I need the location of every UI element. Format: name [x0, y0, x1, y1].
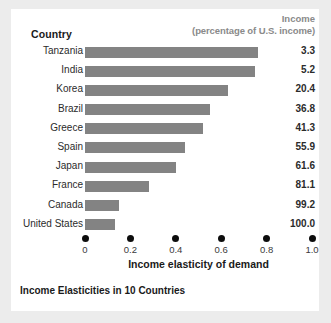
- bar: [85, 85, 228, 96]
- bar-row: Tanzania3.3: [11, 43, 319, 62]
- country-column-header: Country: [31, 28, 72, 40]
- income-header-line2: (percentage of U.S. income): [192, 25, 315, 37]
- bar-row: Spain55.9: [11, 139, 319, 158]
- tick-label: 0.6: [205, 244, 237, 255]
- x-axis-title: Income elasticity of demand: [85, 258, 312, 270]
- bar: [85, 47, 258, 58]
- bar-row: Brazil36.8: [11, 101, 319, 120]
- tick-dot-icon: [127, 235, 134, 242]
- tick-dot-icon: [82, 235, 89, 242]
- income-value: 36.8: [269, 103, 315, 114]
- tick-dot-icon: [263, 235, 270, 242]
- bar-row: Canada99.2: [11, 197, 319, 216]
- country-label: India: [11, 64, 83, 75]
- tick-dot-icon: [309, 235, 316, 242]
- figure-panel: Country Income (percentage of U.S. incom…: [11, 9, 319, 311]
- tick-label: 1.0: [296, 244, 328, 255]
- bar-row: United States100.0: [11, 216, 319, 235]
- table-header: Country Income (percentage of U.S. incom…: [11, 9, 319, 43]
- tick-dot-icon: [172, 235, 179, 242]
- country-label: Tanzania: [11, 45, 83, 56]
- income-column-header: Income (percentage of U.S. income): [192, 13, 315, 37]
- country-label: Greece: [11, 122, 83, 133]
- country-label: Spain: [11, 141, 83, 152]
- bar: [85, 66, 255, 77]
- tick-label: 0.2: [114, 244, 146, 255]
- income-header-line1: Income: [192, 13, 315, 25]
- income-value: 81.1: [269, 179, 315, 190]
- country-label: Korea: [11, 83, 83, 94]
- bar-row: India5.2: [11, 62, 319, 81]
- bar-row: Korea20.4: [11, 81, 319, 100]
- income-value: 20.4: [269, 83, 315, 94]
- figure-caption: Income Elasticities in 10 Countries: [20, 285, 185, 296]
- tick-dot-icon: [218, 235, 225, 242]
- income-value: 5.2: [269, 64, 315, 75]
- bar: [85, 162, 176, 173]
- income-value: 99.2: [269, 199, 315, 210]
- bar: [85, 200, 119, 211]
- tick-label: 0.4: [160, 244, 192, 255]
- bar-rows: Tanzania3.3India5.2Korea20.4Brazil36.8Gr…: [11, 43, 319, 235]
- tick-label: 0: [69, 244, 101, 255]
- bar-row: Greece41.3: [11, 120, 319, 139]
- country-label: United States: [11, 218, 83, 229]
- bar-row: Japan61.6: [11, 158, 319, 177]
- country-label: France: [11, 179, 83, 190]
- bar: [85, 181, 149, 192]
- bar: [85, 123, 203, 134]
- bar-row: France81.1: [11, 177, 319, 196]
- bar: [85, 104, 210, 115]
- country-label: Canada: [11, 199, 83, 210]
- country-label: Brazil: [11, 103, 83, 114]
- income-value: 3.3: [269, 45, 315, 56]
- income-value: 100.0: [269, 218, 315, 229]
- income-value: 41.3: [269, 122, 315, 133]
- country-label: Japan: [11, 160, 83, 171]
- income-value: 55.9: [269, 141, 315, 152]
- bar: [85, 219, 115, 230]
- income-value: 61.6: [269, 160, 315, 171]
- bar: [85, 142, 185, 153]
- tick-label: 0.8: [251, 244, 283, 255]
